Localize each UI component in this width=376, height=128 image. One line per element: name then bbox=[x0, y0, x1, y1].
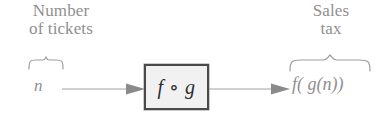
function-box-label: f ∘ g bbox=[158, 75, 196, 99]
function-composition-diagram: Number of tickets Sales tax n f ∘ g bbox=[0, 0, 376, 128]
output-expression: f( g(n)) bbox=[292, 74, 343, 95]
input-label-line1: Number bbox=[2, 2, 120, 20]
input-label-line2: of tickets bbox=[2, 20, 120, 38]
output-label: Sales tax bbox=[288, 2, 374, 38]
output-label-line1: Sales bbox=[288, 2, 374, 20]
output-label-line2: tax bbox=[288, 20, 374, 38]
output-overbrace-icon bbox=[289, 54, 371, 72]
output-arrow-icon bbox=[209, 80, 291, 98]
input-overbrace-icon bbox=[28, 56, 64, 70]
input-label: Number of tickets bbox=[2, 2, 120, 38]
input-arrow-icon bbox=[62, 80, 146, 98]
input-variable: n bbox=[34, 76, 43, 96]
function-box: f ∘ g bbox=[144, 64, 209, 110]
